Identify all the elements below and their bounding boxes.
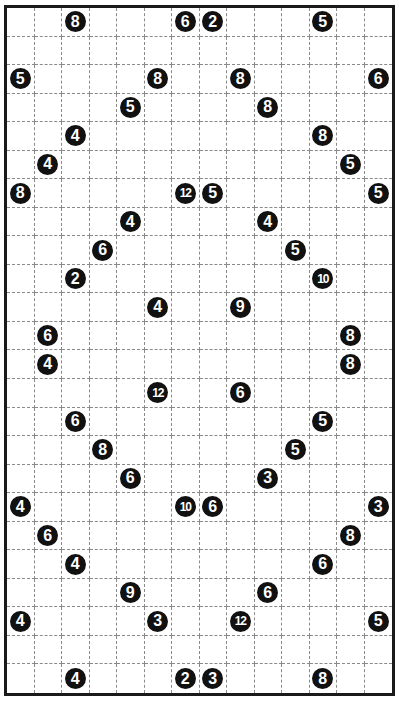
grid-cell[interactable] <box>62 636 90 665</box>
grid-cell[interactable] <box>62 522 90 551</box>
grid-cell[interactable] <box>227 8 255 37</box>
grid-cell[interactable] <box>227 151 255 180</box>
grid-cell[interactable] <box>227 37 255 66</box>
grid-cell[interactable] <box>365 322 393 351</box>
grid-cell[interactable] <box>282 37 310 66</box>
grid-cell[interactable] <box>117 179 145 208</box>
grid-cell[interactable]: 6 <box>172 8 200 37</box>
grid-cell[interactable] <box>145 550 173 579</box>
grid-cell[interactable] <box>145 94 173 123</box>
grid-cell[interactable]: 4 <box>117 208 145 237</box>
grid-cell[interactable] <box>200 636 228 665</box>
grid-cell[interactable] <box>337 607 365 636</box>
grid-cell[interactable]: 5 <box>282 436 310 465</box>
grid-cell[interactable] <box>35 94 63 123</box>
grid-cell[interactable] <box>282 293 310 322</box>
grid-cell[interactable]: 10 <box>172 493 200 522</box>
grid-cell[interactable] <box>90 350 118 379</box>
grid-cell[interactable] <box>90 179 118 208</box>
grid-cell[interactable] <box>337 208 365 237</box>
grid-cell[interactable]: 4 <box>7 493 35 522</box>
grid-cell[interactable] <box>117 436 145 465</box>
grid-cell[interactable] <box>227 122 255 151</box>
grid-cell[interactable] <box>282 522 310 551</box>
grid-cell[interactable] <box>255 151 283 180</box>
grid-cell[interactable] <box>227 179 255 208</box>
grid-cell[interactable] <box>337 379 365 408</box>
grid-cell[interactable] <box>117 408 145 437</box>
grid-cell[interactable] <box>117 65 145 94</box>
grid-cell[interactable] <box>117 122 145 151</box>
grid-cell[interactable] <box>200 265 228 294</box>
grid-cell[interactable] <box>7 465 35 494</box>
grid-cell[interactable] <box>255 265 283 294</box>
grid-cell[interactable] <box>117 151 145 180</box>
grid-cell[interactable] <box>255 664 283 693</box>
grid-cell[interactable] <box>310 465 338 494</box>
grid-cell[interactable]: 8 <box>310 122 338 151</box>
grid-cell[interactable]: 4 <box>62 122 90 151</box>
grid-cell[interactable] <box>90 379 118 408</box>
grid-cell[interactable] <box>337 579 365 608</box>
grid-cell[interactable] <box>35 37 63 66</box>
grid-cell[interactable] <box>172 65 200 94</box>
grid-cell[interactable] <box>337 65 365 94</box>
grid-cell[interactable] <box>310 636 338 665</box>
grid-cell[interactable] <box>145 122 173 151</box>
grid-cell[interactable] <box>35 664 63 693</box>
grid-cell[interactable] <box>35 8 63 37</box>
grid-cell[interactable]: 8 <box>255 94 283 123</box>
grid-cell[interactable]: 5 <box>310 8 338 37</box>
grid-cell[interactable] <box>310 179 338 208</box>
grid-cell[interactable] <box>90 293 118 322</box>
grid-cell[interactable] <box>365 122 393 151</box>
grid-cell[interactable] <box>117 522 145 551</box>
grid-cell[interactable] <box>172 208 200 237</box>
grid-cell[interactable] <box>365 8 393 37</box>
grid-cell[interactable] <box>90 408 118 437</box>
grid-cell[interactable] <box>227 579 255 608</box>
grid-cell[interactable] <box>200 37 228 66</box>
grid-cell[interactable] <box>282 94 310 123</box>
grid-cell[interactable] <box>282 65 310 94</box>
grid-cell[interactable] <box>310 293 338 322</box>
grid-cell[interactable] <box>35 293 63 322</box>
grid-cell[interactable] <box>62 436 90 465</box>
grid-cell[interactable] <box>337 550 365 579</box>
grid-cell[interactable] <box>7 350 35 379</box>
grid-cell[interactable] <box>62 379 90 408</box>
grid-cell[interactable]: 12 <box>172 179 200 208</box>
grid-cell[interactable] <box>200 379 228 408</box>
grid-cell[interactable] <box>255 322 283 351</box>
grid-cell[interactable] <box>255 65 283 94</box>
grid-cell[interactable]: 10 <box>310 265 338 294</box>
grid-cell[interactable] <box>172 94 200 123</box>
grid-cell[interactable]: 3 <box>365 493 393 522</box>
grid-cell[interactable] <box>365 208 393 237</box>
grid-cell[interactable] <box>172 408 200 437</box>
grid-cell[interactable] <box>145 37 173 66</box>
grid-cell[interactable] <box>310 607 338 636</box>
grid-cell[interactable] <box>172 293 200 322</box>
grid-cell[interactable] <box>35 436 63 465</box>
grid-cell[interactable] <box>7 122 35 151</box>
grid-cell[interactable] <box>255 37 283 66</box>
grid-cell[interactable] <box>145 408 173 437</box>
grid-cell[interactable] <box>255 122 283 151</box>
grid-cell[interactable] <box>90 265 118 294</box>
grid-cell[interactable] <box>172 607 200 636</box>
grid-cell[interactable] <box>7 550 35 579</box>
grid-cell[interactable] <box>282 350 310 379</box>
grid-cell[interactable]: 8 <box>7 179 35 208</box>
grid-cell[interactable] <box>200 151 228 180</box>
grid-cell[interactable] <box>117 350 145 379</box>
grid-cell[interactable]: 5 <box>282 236 310 265</box>
grid-cell[interactable] <box>90 151 118 180</box>
grid-cell[interactable] <box>310 37 338 66</box>
grid-cell[interactable] <box>200 65 228 94</box>
grid-cell[interactable]: 6 <box>117 465 145 494</box>
grid-cell[interactable] <box>200 208 228 237</box>
grid-cell[interactable]: 8 <box>145 65 173 94</box>
grid-cell[interactable] <box>227 208 255 237</box>
grid-cell[interactable] <box>145 493 173 522</box>
